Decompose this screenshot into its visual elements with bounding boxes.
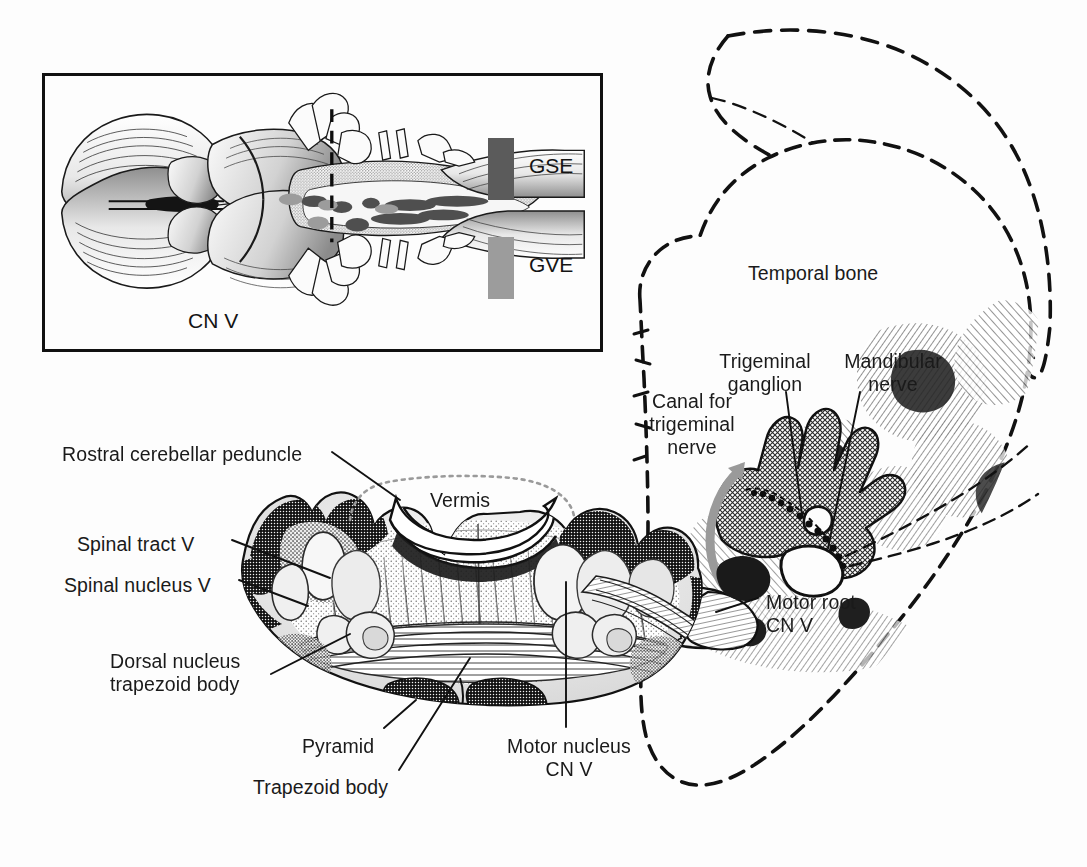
brainstem-dorsal-view	[45, 76, 600, 349]
label-mandibular-nerve: Mandibular nerve	[826, 350, 960, 396]
label-canal-for-trigeminal-nerve: Canal for trigeminal nerve	[630, 390, 754, 459]
label-trapezoid-body: Trapezoid body	[253, 776, 388, 799]
legend-label-gve: GVE	[529, 253, 573, 277]
label-dorsal-nucleus-trapezoid-body: Dorsal nucleus trapezoid body	[110, 650, 240, 696]
label-spinal-nucleus-v: Spinal nucleus V	[64, 574, 211, 597]
legend-swatch-gve	[488, 237, 514, 299]
inset-cn-v-label: CN V	[188, 309, 238, 333]
label-temporal-bone: Temporal bone	[748, 262, 878, 285]
label-rostral-cerebellar-peduncle: Rostral cerebellar peduncle	[62, 443, 302, 466]
leader-pyramid	[384, 700, 416, 728]
label-motor-root-cn-v: Motor root CN V	[766, 591, 856, 637]
legend-swatch-gse	[488, 138, 514, 200]
label-pyramid: Pyramid	[302, 735, 374, 758]
brainstem-inset-panel: GSE GVE CN V	[42, 73, 603, 352]
figure-canvas: GSE GVE CN V Rostral cerebellar peduncle…	[0, 0, 1087, 867]
legend-label-gse: GSE	[529, 154, 573, 178]
label-vermis: Vermis	[430, 489, 490, 512]
label-motor-nucleus-cn-v: Motor nucleus CN V	[489, 735, 649, 781]
label-spinal-tract-v: Spinal tract V	[77, 533, 194, 556]
